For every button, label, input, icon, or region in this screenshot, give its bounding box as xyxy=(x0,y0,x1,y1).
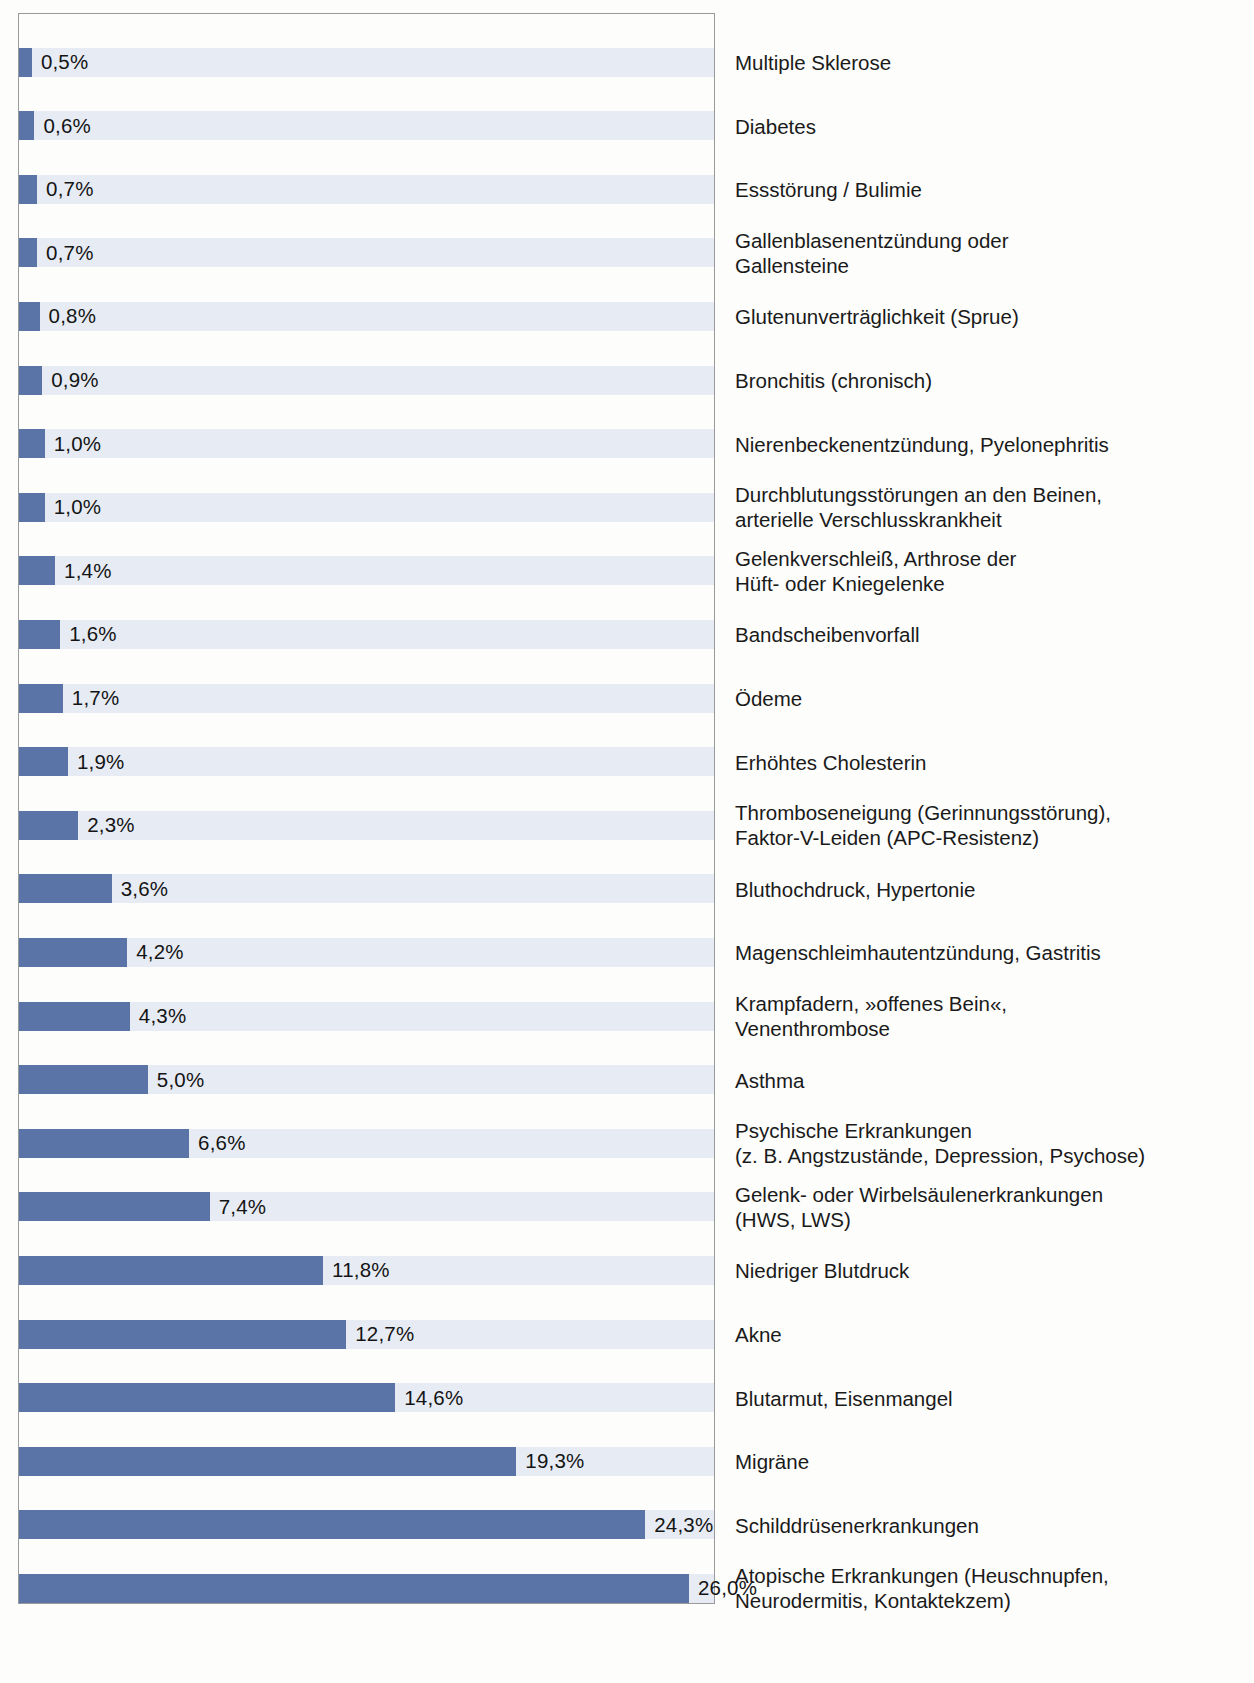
category-label: Multiple Sklerose xyxy=(735,50,1250,75)
bar xyxy=(19,1065,148,1094)
bar xyxy=(19,747,68,776)
bar-row: 0,9%Bronchitis (chronisch) xyxy=(0,366,1254,395)
bar-row: 7,4%Gelenk- oder Wirbelsäulenerkrankunge… xyxy=(0,1192,1254,1221)
bar-row: 4,2%Magenschleimhautentzündung, Gastriti… xyxy=(0,938,1254,967)
category-label: Bluthochdruck, Hypertonie xyxy=(735,876,1250,901)
row-background-stripe xyxy=(19,238,714,267)
bar-row: 14,6%Blutarmut, Eisenmangel xyxy=(0,1383,1254,1412)
bar xyxy=(19,1510,645,1539)
bar xyxy=(19,302,40,331)
bar xyxy=(19,684,63,713)
bar-value-label: 2,3% xyxy=(87,813,135,837)
category-label: Gelenkverschleiß, Arthrose der Hüft- ode… xyxy=(735,546,1250,596)
bar-row: 1,9%Erhöhtes Cholesterin xyxy=(0,747,1254,776)
bar-value-label: 0,7% xyxy=(46,177,94,201)
category-label: Gallenblasenentzündung oder Gallensteine xyxy=(735,228,1250,278)
bar xyxy=(19,1574,689,1603)
horizontal-bar-chart: 0,5%Multiple Sklerose0,6%Diabetes0,7%Ess… xyxy=(0,0,1254,1683)
bar-value-label: 1,0% xyxy=(54,495,102,519)
bar-row: 1,0%Durchblutungsstörungen an den Beinen… xyxy=(0,493,1254,522)
bar-value-label: 11,8% xyxy=(332,1258,390,1282)
category-label: Essstörung / Bulimie xyxy=(735,177,1250,202)
category-label: Psychische Erkrankungen (z. B. Angstzust… xyxy=(735,1118,1250,1168)
bar-value-label: 12,7% xyxy=(355,1322,414,1346)
bar xyxy=(19,811,78,840)
bar-value-label: 0,7% xyxy=(46,241,94,265)
row-background-stripe xyxy=(19,429,714,458)
category-label: Blutarmut, Eisenmangel xyxy=(735,1385,1250,1410)
bar-value-label: 3,6% xyxy=(121,877,169,901)
bar xyxy=(19,1192,210,1221)
bar-row: 1,4%Gelenkverschleiß, Arthrose der Hüft-… xyxy=(0,556,1254,585)
bar-value-label: 1,9% xyxy=(77,750,125,774)
row-background-stripe xyxy=(19,620,714,649)
bar-value-label: 19,3% xyxy=(525,1449,584,1473)
bar-value-label: 7,4% xyxy=(219,1195,267,1219)
category-label: Gelenk- oder Wirbelsäulenerkrankungen (H… xyxy=(735,1182,1250,1232)
bar-row: 0,6%Diabetes xyxy=(0,111,1254,140)
row-background-stripe xyxy=(19,175,714,204)
bar xyxy=(19,1256,323,1285)
category-label: Niedriger Blutdruck xyxy=(735,1258,1250,1283)
bar xyxy=(19,48,32,77)
bar-row: 0,8%Glutenunverträglichkeit (Sprue) xyxy=(0,302,1254,331)
bar-value-label: 4,2% xyxy=(136,940,184,964)
bar xyxy=(19,366,42,395)
bar xyxy=(19,1447,516,1476)
bar-value-label: 0,9% xyxy=(51,368,99,392)
category-label: Ödeme xyxy=(735,686,1250,711)
category-label: Glutenunverträglichkeit (Sprue) xyxy=(735,304,1250,329)
bar-value-label: 14,6% xyxy=(404,1386,463,1410)
category-label: Bronchitis (chronisch) xyxy=(735,368,1250,393)
bar-row: 12,7%Akne xyxy=(0,1320,1254,1349)
category-label: Akne xyxy=(735,1322,1250,1347)
category-label: Durchblutungsstörungen an den Beinen, ar… xyxy=(735,482,1250,532)
row-background-stripe xyxy=(19,366,714,395)
row-background-stripe xyxy=(19,556,714,585)
bar xyxy=(19,1129,189,1158)
row-background-stripe xyxy=(19,684,714,713)
bar-row: 3,6%Bluthochdruck, Hypertonie xyxy=(0,874,1254,903)
bar-value-label: 1,0% xyxy=(54,432,102,456)
category-label: Erhöhtes Cholesterin xyxy=(735,749,1250,774)
row-background-stripe xyxy=(19,493,714,522)
bar xyxy=(19,556,55,585)
category-label: Krampfadern, »offenes Bein«, Venenthromb… xyxy=(735,991,1250,1041)
bar-row: 0,7%Gallenblasenentzündung oder Gallenst… xyxy=(0,238,1254,267)
bar xyxy=(19,429,45,458)
bar xyxy=(19,1320,346,1349)
bar-row: 1,7%Ödeme xyxy=(0,684,1254,713)
row-background-stripe xyxy=(19,302,714,331)
bar-row: 1,6%Bandscheibenvorfall xyxy=(0,620,1254,649)
bar-row: 19,3%Migräne xyxy=(0,1447,1254,1476)
bar-row: 11,8%Niedriger Blutdruck xyxy=(0,1256,1254,1285)
category-label: Nierenbeckenentzündung, Pyelonephritis xyxy=(735,431,1250,456)
bar-row: 0,7%Essstörung / Bulimie xyxy=(0,175,1254,204)
bar-value-label: 1,4% xyxy=(64,559,112,583)
category-label: Schilddrüsenerkrankungen xyxy=(735,1512,1250,1537)
category-label: Thromboseneigung (Gerinnungsstörung), Fa… xyxy=(735,800,1250,850)
bar-row: 5,0%Asthma xyxy=(0,1065,1254,1094)
bar-row: 2,3%Thromboseneigung (Gerinnungsstörung)… xyxy=(0,811,1254,840)
category-label: Migräne xyxy=(735,1449,1250,1474)
bar xyxy=(19,1002,130,1031)
bar-row: 26,0%Atopische Erkrankungen (Heuschnupfe… xyxy=(0,1574,1254,1603)
category-label: Magenschleimhautentzündung, Gastritis xyxy=(735,940,1250,965)
bar-value-label: 5,0% xyxy=(157,1068,205,1092)
bar-value-label: 1,6% xyxy=(69,622,117,646)
category-label: Bandscheibenvorfall xyxy=(735,622,1250,647)
category-label: Asthma xyxy=(735,1067,1250,1092)
bar xyxy=(19,111,34,140)
bar-value-label: 4,3% xyxy=(139,1004,187,1028)
category-label: Atopische Erkrankungen (Heuschnupfen, Ne… xyxy=(735,1563,1250,1613)
bar xyxy=(19,620,60,649)
bar xyxy=(19,938,127,967)
bar xyxy=(19,238,37,267)
bar-value-label: 0,6% xyxy=(43,114,91,138)
bar xyxy=(19,874,112,903)
bar-row: 4,3%Krampfadern, »offenes Bein«, Venenth… xyxy=(0,1002,1254,1031)
bar-row: 0,5%Multiple Sklerose xyxy=(0,48,1254,77)
bar-value-label: 0,5% xyxy=(41,50,89,74)
bar-value-label: 24,3% xyxy=(654,1513,713,1537)
bar xyxy=(19,175,37,204)
